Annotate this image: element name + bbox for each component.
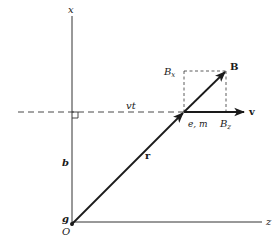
z-axis-label: z: [265, 216, 272, 227]
right-angle-marker: [72, 112, 78, 118]
x-axis-label: x: [68, 4, 74, 15]
origin-dot: [70, 222, 74, 226]
position-vector-label: r: [145, 150, 151, 161]
displacement-label: vt: [126, 100, 137, 111]
bx-label: Bx: [163, 66, 175, 79]
origin-label: O: [62, 226, 70, 237]
b-field-label: B: [230, 61, 238, 72]
bz-label: Bz: [219, 118, 231, 131]
origin-point-label: g: [62, 213, 69, 224]
particle-label: e, m: [188, 119, 208, 129]
charge-field-diagram: x z g O b vt r e, m v B Bx Bz: [0, 0, 275, 244]
b-field-vector: [184, 72, 225, 112]
impact-parameter-label: b: [62, 157, 69, 168]
velocity-label: v: [248, 106, 256, 117]
r-vector: [72, 113, 183, 224]
